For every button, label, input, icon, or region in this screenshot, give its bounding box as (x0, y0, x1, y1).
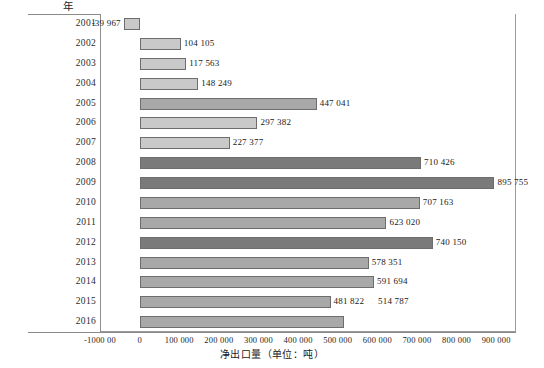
bar-value-label: 591 694 (377, 272, 408, 292)
bar (140, 177, 495, 189)
bar-row: 2003117 563 (0, 54, 544, 74)
bar-value-label: 227 377 (233, 133, 264, 153)
year-tick-label: 2016 (40, 312, 96, 332)
bar (140, 296, 331, 308)
year-tick-label: 2006 (40, 113, 96, 133)
bar-chart: 年 2001-39 9672002104 1052003117 56320041… (0, 0, 544, 368)
bar-value-label: 740 150 (436, 233, 467, 253)
bar-value-label: -39 967 (92, 14, 121, 34)
year-tick-label: 2010 (40, 193, 96, 213)
bar-value-label: 117 563 (189, 54, 219, 74)
bar-row: 2016514 787 (0, 312, 544, 332)
bar (140, 276, 374, 288)
x-axis-title: 净出口量（单位：吨） (0, 348, 544, 362)
bar (140, 316, 344, 328)
bar-value-label: 481 822 (334, 292, 365, 312)
bar-row: 2004148 249 (0, 74, 544, 94)
year-tick-label: 2003 (40, 54, 96, 74)
bar-row: 2005447 041 (0, 94, 544, 114)
bar-value-label: 578 351 (372, 253, 403, 273)
bar (140, 58, 187, 70)
bar (140, 78, 199, 90)
bar-value-label: 707 163 (423, 193, 454, 213)
bar-row: 2002104 105 (0, 34, 544, 54)
year-tick-label: 2012 (40, 233, 96, 253)
bar (140, 197, 420, 209)
bar (140, 257, 369, 269)
bar-value-label: 710 426 (424, 153, 455, 173)
bar-value-label: 447 041 (320, 94, 351, 114)
bar-row: 2014591 694 (0, 272, 544, 292)
bar (140, 217, 387, 229)
bar-row: 2010707 163 (0, 193, 544, 213)
bar-row: 2006297 382 (0, 113, 544, 133)
bar-row: 2008710 426 (0, 153, 544, 173)
bar-row: 2013578 351 (0, 253, 544, 273)
bar-value-label: 895 755 (498, 173, 529, 193)
year-tick-label: 2005 (40, 94, 96, 114)
year-tick-label: 2008 (40, 153, 96, 173)
year-tick-label: 2007 (40, 133, 96, 153)
year-tick-label: 2002 (40, 34, 96, 54)
bar (124, 18, 140, 30)
bottom-axis-rule (28, 332, 516, 333)
bar (140, 237, 433, 249)
year-tick-label: 2013 (40, 253, 96, 273)
year-tick-label: 2011 (40, 213, 96, 233)
bar (140, 157, 421, 169)
year-tick-label: 2014 (40, 272, 96, 292)
bar-row: 2001-39 967 (0, 14, 544, 34)
year-tick-label: 2001 (40, 14, 96, 34)
bar-value-label: 148 249 (201, 74, 232, 94)
bar-value-label: 104 105 (184, 34, 215, 54)
bar-row: 2011623 020 (0, 213, 544, 233)
y-axis-title: 年 (38, 0, 98, 14)
bar (140, 137, 230, 149)
bar (140, 38, 181, 50)
bar-value-label: 297 382 (260, 113, 291, 133)
year-tick-label: 2015 (40, 292, 96, 312)
bar-value-label: 623 020 (389, 213, 420, 233)
bar-row: 2009895 755 (0, 173, 544, 193)
x-tick-label: 900 000 (466, 334, 526, 347)
bar-value-label: 514 787 (378, 292, 409, 312)
bar-row: 2015481 822 (0, 292, 544, 312)
year-tick-label: 2004 (40, 74, 96, 94)
bar-row: 2007227 377 (0, 133, 544, 153)
bar (140, 117, 258, 129)
year-tick-label: 2009 (40, 173, 96, 193)
bar-row: 2012740 150 (0, 233, 544, 253)
bar (140, 98, 317, 110)
